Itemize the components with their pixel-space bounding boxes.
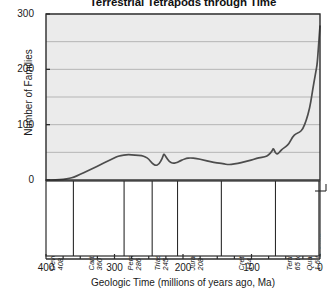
chart-container: Terrestrial Tetrapods through Time Numbe…	[0, 0, 336, 297]
plot-area	[0, 0, 336, 297]
period-band	[46, 181, 320, 256]
